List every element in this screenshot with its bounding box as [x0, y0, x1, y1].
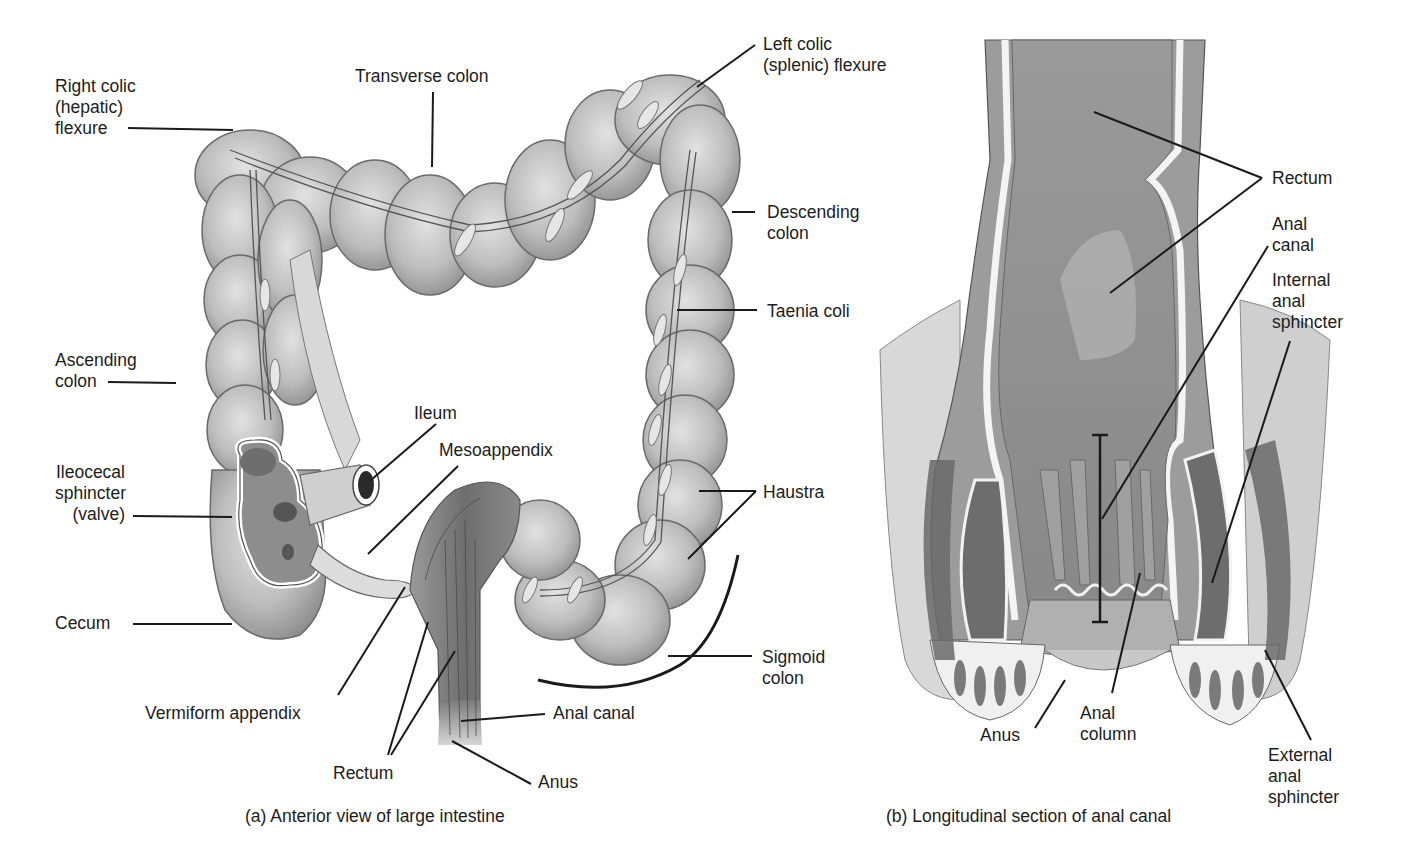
- label-ileocecal-sphincter: Ileocecal sphincter (valve): [55, 462, 125, 525]
- label-right-colic-flexure: Right colic (hepatic) flexure: [55, 76, 136, 139]
- label-rectum-b: Rectum: [1272, 168, 1332, 189]
- label-cecum: Cecum: [55, 613, 110, 634]
- caption-panel-b: (b) Longitudinal section of anal canal: [886, 806, 1171, 827]
- label-internal-anal-sphincter: Internal anal sphincter: [1272, 270, 1343, 333]
- label-left-colic-flexure: Left colic (splenic) flexure: [763, 34, 887, 76]
- label-external-anal-sphincter: External anal sphincter: [1268, 745, 1339, 808]
- rectum-tube: [410, 482, 520, 745]
- ileum-tube: [300, 465, 379, 525]
- caption-panel-a: (a) Anterior view of large intestine: [245, 806, 505, 827]
- label-anus-b: Anus: [980, 725, 1020, 746]
- label-taenia-coli: Taenia coli: [767, 301, 850, 322]
- label-anal-canal-b: Anal canal: [1272, 214, 1314, 256]
- anal-canal-section: [880, 40, 1330, 725]
- label-mesoappendix: Mesoappendix: [439, 440, 553, 461]
- label-ileum: Ileum: [414, 403, 457, 424]
- label-haustra: Haustra: [763, 482, 824, 503]
- label-anal-canal-a: Anal canal: [553, 703, 635, 724]
- label-descending-colon: Descending colon: [767, 202, 859, 244]
- vermiform-appendix: [310, 545, 415, 598]
- label-ascending-colon: Ascending colon: [55, 350, 137, 392]
- label-rectum-a: Rectum: [333, 763, 393, 784]
- anatomy-figure: Right colic (hepatic) flexure Transverse…: [0, 0, 1402, 866]
- label-anus-a: Anus: [538, 772, 578, 793]
- label-vermiform-appendix: Vermiform appendix: [145, 703, 301, 724]
- label-sigmoid-colon: Sigmoid colon: [762, 647, 825, 689]
- label-transverse-colon: Transverse colon: [355, 66, 489, 87]
- large-intestine-illustration: [0, 0, 1402, 866]
- label-anal-column: Anal column: [1080, 703, 1136, 745]
